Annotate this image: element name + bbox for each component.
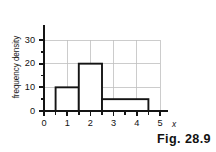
y-axis-tick-label: 20	[17, 59, 35, 68]
x-axis-tick-label: 4	[130, 119, 144, 128]
x-axis-label: x	[172, 120, 176, 128]
histogram-bar	[79, 64, 102, 111]
y-axis-tick-label: 30	[17, 36, 35, 45]
histogram-plot	[0, 0, 216, 152]
histogram-bar	[102, 99, 148, 111]
y-axis-tick-label: 10	[17, 83, 35, 92]
x-axis-tick-label: 5	[153, 119, 167, 128]
figure-container: frequency density 0 10 20 30 0 1 2 3 4 5…	[0, 0, 216, 152]
x-axis-tick-label: 3	[107, 119, 121, 128]
y-axis-tick-label: 0	[17, 107, 35, 116]
x-axis-tick-label: 1	[60, 119, 74, 128]
x-axis-tick-label: 0	[37, 119, 51, 128]
figure-caption: Fig. 28.9	[157, 133, 211, 146]
histogram-bar	[56, 87, 79, 111]
x-axis-tick-label: 2	[83, 119, 97, 128]
